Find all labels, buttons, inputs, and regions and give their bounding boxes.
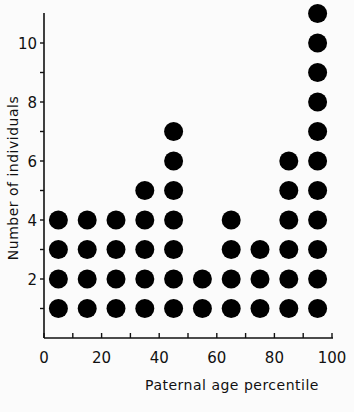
data-dot [164,240,183,259]
data-dot [164,270,183,289]
data-dot [135,211,154,230]
y-axis-label: Number of individuals [5,96,21,260]
x-axis-label: Paternal age percentile [145,377,319,393]
data-dot [193,270,212,289]
data-dot [279,181,298,200]
dot-column [251,240,270,318]
y-tick-label: 8 [27,94,37,112]
data-dot [49,211,68,230]
x-tick-label: 60 [207,349,226,367]
x-tick-label: 80 [265,349,284,367]
dot-column [107,211,126,319]
dot-column [193,270,212,319]
plot-area [49,4,327,318]
y-tick-label: 10 [18,35,37,53]
data-dot [78,240,97,259]
y-axis-ticks: 246810 [18,35,44,309]
dot-column [308,4,327,318]
data-dot [279,299,298,318]
data-dot [107,270,126,289]
data-dot [308,63,327,82]
data-dot [308,122,327,141]
data-dot [251,240,270,259]
data-dot [308,152,327,171]
data-dot [308,211,327,230]
data-dot [78,211,97,230]
data-dot [107,299,126,318]
x-tick-label: 40 [150,349,169,367]
data-dot [164,152,183,171]
data-dot [49,270,68,289]
data-dot [308,34,327,53]
data-dot [135,181,154,200]
data-dot [308,299,327,318]
data-dot [222,211,241,230]
data-dot [164,122,183,141]
data-dot [222,240,241,259]
y-tick-label: 6 [27,153,37,171]
data-dot [164,181,183,200]
dot-plot-chart: 020406080100 246810 Paternal age percent… [0,0,354,412]
data-dot [78,270,97,289]
data-dot [222,270,241,289]
data-dot [222,299,241,318]
data-dot [308,240,327,259]
data-dot [135,299,154,318]
axes [44,13,333,338]
dot-column [279,152,298,319]
data-dot [251,299,270,318]
data-dot [308,4,327,23]
data-dot [251,270,270,289]
data-dot [308,270,327,289]
data-dot [193,299,212,318]
data-dot [308,181,327,200]
data-dot [279,270,298,289]
data-dot [135,240,154,259]
x-tick-label: 0 [39,349,49,367]
data-dot [164,299,183,318]
data-dot [135,270,154,289]
data-dot [107,211,126,230]
y-tick-label: 4 [27,212,37,230]
data-dot [279,240,298,259]
data-dot [308,93,327,112]
x-tick-label: 100 [318,349,347,367]
data-dot [49,240,68,259]
data-dot [279,152,298,171]
data-dot [279,211,298,230]
x-tick-label: 20 [92,349,111,367]
data-dot [49,299,68,318]
data-dot [78,299,97,318]
data-dot [164,211,183,230]
dot-column [164,122,183,318]
y-tick-label: 2 [27,271,37,289]
data-dot [107,240,126,259]
dot-column [78,211,97,319]
dot-column [49,211,68,319]
dot-column [222,211,241,319]
dot-column [135,181,154,318]
